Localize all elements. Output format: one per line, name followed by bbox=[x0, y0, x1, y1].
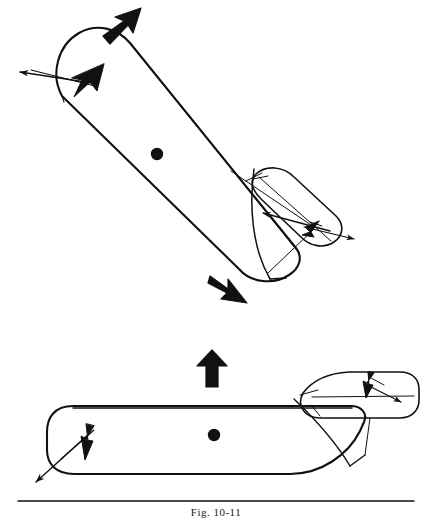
tug-hull-lower bbox=[300, 372, 419, 418]
ship-hull-lower bbox=[47, 406, 365, 474]
ship-hull-upper bbox=[56, 28, 299, 281]
upper-panel bbox=[20, 8, 354, 303]
figure-caption: Fig. 10-11 bbox=[0, 506, 432, 519]
lower-panel bbox=[36, 350, 419, 482]
center-of-gravity-lower bbox=[208, 429, 220, 441]
bold-head-stern-lower bbox=[363, 372, 374, 398]
bold-head-bow-lower bbox=[81, 424, 94, 460]
tug-connection-lines-upper bbox=[231, 171, 314, 273]
bold-arrow-ship-motion bbox=[103, 8, 141, 44]
bold-arrow-stern-swing bbox=[208, 276, 247, 303]
figure-illustration bbox=[0, 0, 432, 519]
bold-arrow-ship-motion-lower bbox=[197, 350, 227, 387]
thin-arrow-tug-reaction-lower bbox=[369, 386, 401, 402]
tug-hull-upper bbox=[252, 168, 342, 246]
figure-page: Fig. 10-11 bbox=[0, 0, 432, 519]
center-of-gravity-upper bbox=[151, 148, 163, 160]
